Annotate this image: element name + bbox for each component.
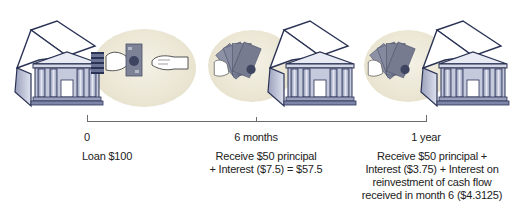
description-1-year: Receive $50 principal + Interest ($3.75)… bbox=[352, 150, 512, 202]
description-line: Loan $100 bbox=[52, 150, 162, 163]
timeline-axis bbox=[87, 121, 427, 122]
open-hand-icon bbox=[150, 51, 192, 73]
description-line: reinvestment of cash flow bbox=[352, 176, 512, 189]
description-line: Receive $50 principal bbox=[191, 150, 341, 163]
description-line: + Interest ($7.5) = $57.5 bbox=[191, 163, 341, 176]
description-line: received in month 6 ($4.3125) bbox=[352, 189, 512, 202]
description-line: Interest ($3.75) + Interest on bbox=[352, 163, 512, 176]
bank-icon bbox=[5, 8, 105, 108]
bank-icon bbox=[411, 8, 511, 108]
tick-1-year bbox=[426, 115, 427, 122]
bank-icon bbox=[258, 8, 358, 108]
time-label-6-months: 6 months bbox=[206, 131, 306, 144]
handing-money-icon bbox=[104, 42, 148, 80]
tick-6-months bbox=[256, 117, 257, 122]
bank-drawer-icon bbox=[91, 52, 104, 74]
description-0: Loan $100 bbox=[52, 150, 162, 163]
time-label-0: 0 bbox=[67, 131, 107, 144]
time-label-1-year: 1 year bbox=[376, 131, 476, 144]
tick-0 bbox=[87, 115, 88, 122]
description-line: Receive $50 principal + bbox=[352, 150, 512, 163]
description-6-months: Receive $50 principal + Interest ($7.5) … bbox=[191, 150, 341, 176]
